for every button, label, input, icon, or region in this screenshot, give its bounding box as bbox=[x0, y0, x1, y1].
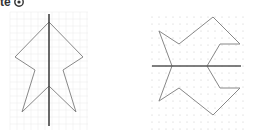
figures-canvas bbox=[0, 0, 255, 135]
horizontal-symmetry-figure bbox=[151, 16, 243, 129]
vertical-symmetry-figure bbox=[10, 12, 88, 130]
